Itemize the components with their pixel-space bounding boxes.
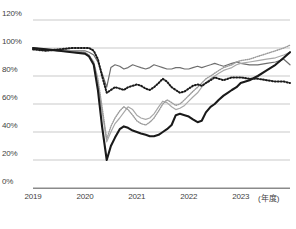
y-axis-tick-label: 0% [2, 177, 13, 186]
x-axis-tick-label: 2023 [221, 192, 261, 201]
series-gray-dotted-light [33, 45, 290, 139]
y-axis-tick-label: 40% [2, 121, 17, 130]
y-axis-tick-label: 60% [2, 93, 17, 102]
x-axis-tick-label: 2022 [169, 192, 209, 201]
series-gray-solid-light [33, 48, 290, 142]
x-axis-unit-label: (年度) [258, 192, 279, 203]
y-axis-tick-label: 120% [2, 9, 22, 18]
x-axis-tick-label: 2021 [117, 192, 157, 201]
gridlines [33, 20, 290, 188]
x-axis-tick-label: 2020 [65, 192, 105, 201]
line-chart: 120%100%80%60%40%20%0% 20192020202120222… [0, 0, 296, 229]
y-axis-tick-label: 20% [2, 149, 17, 158]
series-black-dotted-bold [33, 48, 290, 93]
y-axis-tick-label: 100% [2, 37, 22, 46]
series-lines [33, 45, 290, 160]
x-axis-tick-label: 2019 [13, 192, 53, 201]
y-axis-tick-label: 80% [2, 65, 17, 74]
